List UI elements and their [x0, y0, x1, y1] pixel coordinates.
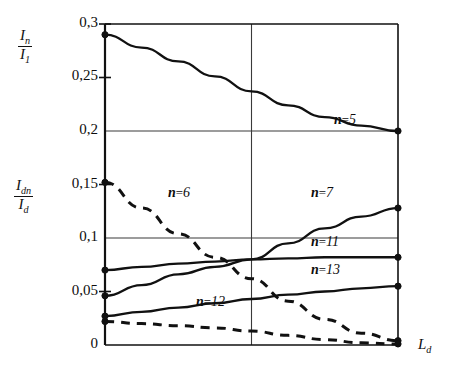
marker-end-n5 [395, 128, 401, 134]
plot-area [0, 0, 454, 376]
marker-start-n13 [102, 313, 108, 319]
series-label-n11: n=11 [311, 234, 339, 250]
chart-figure: In I1 Idn Id Ld 0,3 0,25 0,2 0,15 0,1 0,… [0, 0, 454, 376]
marker-end-n12 [395, 341, 401, 347]
series-label-n7: n=7 [311, 185, 333, 201]
series-label-n6: n=6 [168, 185, 190, 201]
series-label-n13: n=13 [311, 262, 340, 278]
series-label-n5: n=5 [334, 112, 356, 128]
marker-start-n11 [102, 267, 108, 273]
marker-start-n6 [102, 179, 108, 185]
marker-end-n7 [395, 205, 401, 211]
marker-start-n7 [102, 293, 108, 299]
marker-end-n11 [395, 254, 401, 260]
series-label-n12: n=12 [196, 294, 225, 310]
marker-end-n13 [395, 283, 401, 289]
marker-start-n5 [102, 32, 108, 38]
grid-layer [105, 24, 398, 345]
